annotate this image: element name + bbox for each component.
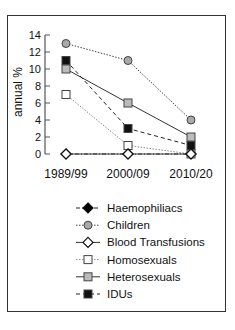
legend-item: IDUs [76, 288, 133, 300]
line-chart: 02468101214annual %1989/992000/092010/20… [0, 0, 235, 330]
legend-label: IDUs [107, 288, 133, 300]
markers-children [62, 40, 195, 125]
y-tick-label: 6 [35, 97, 41, 109]
legend-label: Haemophiliacs [107, 202, 183, 214]
y-axis: 02468101214 [29, 29, 50, 160]
legend-item: Haemophiliacs [76, 202, 183, 214]
y-tick-label: 14 [29, 29, 41, 41]
y-tick-label: 8 [35, 80, 41, 92]
y-tick-label: 12 [29, 46, 41, 58]
x-axis: 1989/992000/092010/20 [44, 167, 213, 181]
y-axis-title: annual % [11, 67, 25, 117]
legend-label: Homosexuals [107, 254, 177, 266]
legend-label: Heterosexuals [107, 271, 181, 283]
legend-label: Children [107, 219, 150, 231]
y-tick-label: 10 [29, 63, 41, 75]
legend-label: Blood Transfusions [107, 236, 205, 248]
legend-item: Homosexuals [76, 254, 177, 266]
legend-item: Blood Transfusions [76, 236, 205, 248]
y-tick-label: 2 [35, 131, 41, 143]
legend-item: Heterosexuals [76, 271, 181, 283]
y-tick-label: 0 [35, 148, 41, 160]
y-tick-label: 4 [35, 114, 41, 126]
x-tick-label: 2000/09 [106, 167, 150, 181]
x-tick-label: 2010/20 [169, 167, 213, 181]
legend: HaemophiliacsChildrenBlood TransfusionsH… [76, 202, 205, 300]
legend-item: Children [76, 219, 150, 231]
x-tick-label: 1989/99 [44, 167, 88, 181]
